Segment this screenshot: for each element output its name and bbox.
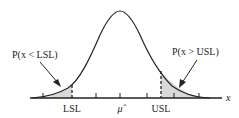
arrow-right xyxy=(179,60,197,88)
right-tail-shade xyxy=(161,72,205,98)
mean-label: μ̂ xyxy=(116,103,126,114)
arrow-left xyxy=(40,62,61,87)
x-axis-label: x xyxy=(225,92,231,103)
lsl-label: LSL xyxy=(63,103,81,114)
left-tail-label: P(x < LSL) xyxy=(12,49,58,61)
usl-label: USL xyxy=(152,103,171,114)
normal-distribution-diagram: P(x < LSL) P(x > USL) LSL μ̂ USL x xyxy=(0,0,239,118)
right-tail-label: P(x > USL) xyxy=(172,46,219,58)
